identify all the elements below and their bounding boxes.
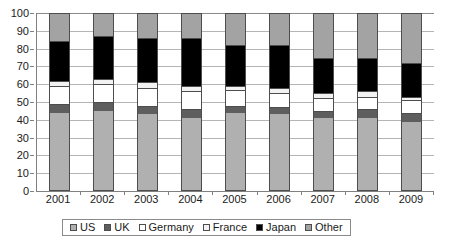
y-axis-tick-label: 50 [0,97,29,108]
bar-segment-germany[interactable] [225,90,246,106]
bar-segment-japan[interactable] [49,41,70,80]
legend-label: France [213,222,247,233]
stacked-bar[interactable] [225,13,246,191]
stacked-bar[interactable] [49,13,70,191]
bar-segment-japan[interactable] [225,45,246,86]
bar-segment-us[interactable] [93,111,114,191]
x-axis-tick-label: 2006 [254,194,304,205]
bar-segment-japan[interactable] [401,63,422,97]
bar-segment-uk[interactable] [49,104,70,113]
y-axis-tick-mark [30,13,34,14]
legend-label: UK [114,222,129,233]
bar-segment-france[interactable] [137,82,158,87]
legend-item-france[interactable]: France [203,222,247,233]
stacked-bar[interactable] [401,13,422,191]
y-axis-tick-label: 30 [0,132,29,143]
legend-item-germany[interactable]: Germany [139,222,194,233]
y-axis-tick-label: 70 [0,61,29,72]
bar-segment-japan[interactable] [269,45,290,88]
bar-segment-france[interactable] [225,86,246,90]
bar-segment-other[interactable] [137,13,158,38]
stacked-bar[interactable] [181,13,202,191]
legend-item-japan[interactable]: Japan [256,222,296,233]
bar-segment-other[interactable] [357,13,378,58]
bar-segment-france[interactable] [313,93,334,98]
bar-segment-japan[interactable] [93,36,114,79]
stacked-bar-chart: 0102030405060708090100 20012002200320042… [0,0,450,245]
bar-segment-france[interactable] [269,88,290,93]
bar-series-container [37,13,434,191]
legend-swatch-icon [104,224,111,231]
bar-segment-other[interactable] [401,13,422,63]
bar-segment-uk[interactable] [313,111,334,118]
bar-segment-germany[interactable] [49,86,70,104]
y-axis-tick-mark [30,66,34,67]
bar-segment-us[interactable] [269,114,290,191]
y-axis-tick-label: 20 [0,150,29,161]
bar-segment-other[interactable] [269,13,290,45]
stacked-bar[interactable] [357,13,378,191]
y-axis-tick-label: 80 [0,43,29,54]
y-axis-tick-label: 90 [0,25,29,36]
bar-segment-germany[interactable] [269,93,290,107]
y-axis-tick-mark [30,138,34,139]
bar-segment-germany[interactable] [357,97,378,109]
legend-swatch-icon [203,224,210,231]
stacked-bar[interactable] [313,13,334,191]
bar-segment-other[interactable] [93,13,114,36]
bar-segment-us[interactable] [181,118,202,191]
bar-segment-uk[interactable] [225,106,246,113]
bar-segment-us[interactable] [401,122,422,191]
bar-segment-france[interactable] [401,97,422,101]
bar-segment-us[interactable] [313,118,334,191]
legend-item-uk[interactable]: UK [104,222,129,233]
bar-segment-france[interactable] [49,81,70,86]
bar-segment-uk[interactable] [181,109,202,118]
bar-segment-us[interactable] [357,118,378,191]
legend-item-us[interactable]: US [70,222,95,233]
y-axis-tick-mark [30,155,34,156]
stacked-bar[interactable] [93,13,114,191]
bar-segment-us[interactable] [225,113,246,191]
bar-segment-uk[interactable] [357,109,378,118]
legend-label: US [80,222,95,233]
bar-segment-france[interactable] [181,86,202,91]
bar-segment-other[interactable] [181,13,202,38]
y-axis-tick-mark [30,49,34,50]
legend-label: Other [315,222,343,233]
legend-item-other[interactable]: Other [305,222,343,233]
bar-segment-uk[interactable] [269,107,290,114]
plot-area [36,13,434,192]
bar-group [137,13,158,191]
bar-group [49,13,70,191]
stacked-bar[interactable] [137,13,158,191]
legend-label: Germany [149,222,194,233]
bar-segment-france[interactable] [93,79,114,84]
bar-segment-japan[interactable] [313,58,334,94]
bar-segment-japan[interactable] [357,58,378,92]
y-axis-tick-mark [30,84,34,85]
bar-segment-other[interactable] [225,13,246,45]
bar-segment-germany[interactable] [93,84,114,102]
bar-segment-us[interactable] [137,114,158,191]
bar-segment-germany[interactable] [137,88,158,106]
legend-label: Japan [266,222,296,233]
bar-segment-other[interactable] [49,13,70,41]
chart-legend: USUKGermanyFranceJapanOther [62,219,351,236]
bar-segment-uk[interactable] [137,106,158,115]
x-axis-tick-label: 2003 [121,194,171,205]
bar-segment-other[interactable] [313,13,334,58]
bar-group [313,13,334,191]
bar-segment-germany[interactable] [181,91,202,109]
bar-segment-germany[interactable] [313,98,334,110]
x-axis-tick-mark [433,191,434,195]
bar-segment-uk[interactable] [401,113,422,122]
bar-segment-us[interactable] [49,113,70,191]
bar-segment-japan[interactable] [137,38,158,83]
bar-segment-japan[interactable] [181,38,202,86]
stacked-bar[interactable] [269,13,290,191]
x-axis-tick-label: 2009 [386,194,436,205]
bar-segment-france[interactable] [357,91,378,96]
bar-segment-uk[interactable] [93,102,114,111]
bar-segment-germany[interactable] [401,100,422,112]
